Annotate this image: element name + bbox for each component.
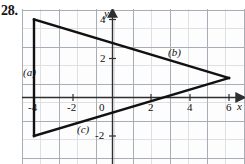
segment-b	[34, 20, 229, 79]
segment-c	[34, 78, 229, 136]
problem-number: 28.	[1, 3, 18, 19]
coordinate-plane: -4 -2 0 2 4 6 4 2 -2 x y (a) (b) (c)	[22, 9, 245, 164]
graph-figure: 28.	[0, 0, 245, 164]
triangle-shape	[22, 9, 245, 164]
